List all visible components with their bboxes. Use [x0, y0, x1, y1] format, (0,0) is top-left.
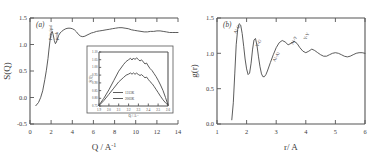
x-tick-label-b-5: 6 — [363, 128, 366, 135]
inset-y-axis-label: S(Q) — [89, 75, 93, 83]
y-ticks-a — [30, 18, 34, 124]
legend-label-2003k: 2003K — [125, 97, 135, 101]
y-axis-label-a: S(Q) — [2, 62, 12, 80]
x-tick-label-a-7: 14 — [175, 128, 182, 135]
x-tick-label-a-5: 10 — [133, 128, 139, 135]
y-tick-label-a-1: 0.0 — [19, 94, 27, 101]
y-tick-label-b-0: 0.0 — [206, 120, 214, 127]
inset-y-tick-7: 1.10 — [92, 50, 98, 54]
x-tick-label-b-0: 1 — [215, 128, 218, 135]
panel-b-plot: 1 2 3 4 5 6 0.0 0.5 1.0 1.5 r/ A g(r) (b… — [187, 0, 373, 158]
y-axis-label-b: g(r) — [189, 64, 199, 78]
inset-y-tick-2: 0.85 — [92, 89, 98, 93]
x-tick-label-a-2: 4 — [71, 128, 75, 135]
y-tick-label-b-2: 1.0 — [206, 50, 214, 57]
x-tick-label-a-3: 6 — [92, 128, 95, 135]
y-tick-label-a-2: 0.5 — [19, 67, 27, 74]
peak-label-al-o: Al-O — [232, 24, 241, 34]
inset-plot: 0.75 0.80 0.85 0.90 0.95 1.00 1.05 1.10 … — [87, 46, 173, 118]
x-tick-label-b-3: 4 — [304, 128, 308, 135]
inset-x-tick-3: 2.2 — [127, 108, 131, 112]
figure-container: 0 2 4 6 8 10 12 14 -0.5 0.0 0.5 1.0 1.5 … — [0, 0, 373, 158]
inset-x-tick-1: 2.0 — [107, 108, 111, 112]
panel-a: 0 2 4 6 8 10 12 14 -0.5 0.0 0.5 1.0 1.5 … — [0, 0, 186, 158]
inset-y-tick-6: 1.05 — [92, 58, 98, 62]
y-tick-label-a-3: 1.0 — [19, 41, 27, 48]
x-tick-label-a-6: 12 — [154, 128, 160, 135]
y-tick-label-b-1: 0.5 — [206, 85, 214, 92]
inset-x-tick-7: 2.6 — [166, 108, 170, 112]
inset-x-tick-6: 2.5 — [156, 108, 160, 112]
x-ticks-b — [217, 18, 365, 124]
inset-y-tick-3: 0.90 — [92, 81, 98, 85]
y-tick-label-a-0: -0.5 — [17, 120, 27, 127]
inset-x-axis-label: Q / A-1 — [129, 114, 140, 118]
x-tick-label-b-2: 3 — [275, 128, 278, 135]
x-tick-label-b-4: 5 — [334, 128, 337, 135]
panel-b: 1 2 3 4 5 6 0.0 0.5 1.0 1.5 r/ A g(r) (b… — [187, 0, 373, 158]
y-tick-label-a-4: 1.5 — [19, 14, 27, 21]
y-ticks-b — [217, 18, 221, 124]
panel-b-id: (b) — [223, 21, 232, 29]
legend-label-1313k: 1313K — [125, 91, 135, 95]
x-axis-label-b: r/ A — [284, 142, 298, 152]
inset-y-tick-4: 0.95 — [92, 73, 98, 77]
peak-label-y-y: Y-Y — [302, 31, 310, 41]
x-tick-label-a-0: 0 — [28, 128, 31, 135]
inset-x-tick-4: 2.3 — [136, 108, 140, 112]
panel-a-id: (a) — [36, 21, 45, 29]
inset-y-tick-5: 1.00 — [92, 65, 98, 69]
panel-a-plot: 0 2 4 6 8 10 12 14 -0.5 0.0 0.5 1.0 1.5 … — [0, 0, 186, 158]
inset-x-tick-5: 2.4 — [146, 108, 150, 112]
inset-x-tick-2: 2.1 — [117, 108, 121, 112]
x-tick-label-a-4: 8 — [113, 128, 116, 135]
x-tick-label-a-1: 2 — [49, 128, 52, 135]
y-tick-label-b-3: 1.5 — [206, 14, 214, 21]
x-tick-label-b-1: 2 — [245, 128, 248, 135]
inset-y-tick-1: 0.80 — [92, 96, 98, 100]
gr-curve — [232, 24, 365, 120]
x-axis-label-a: Q / A-1 — [92, 142, 117, 152]
inset-x-tick-0: 1.9 — [97, 108, 101, 112]
